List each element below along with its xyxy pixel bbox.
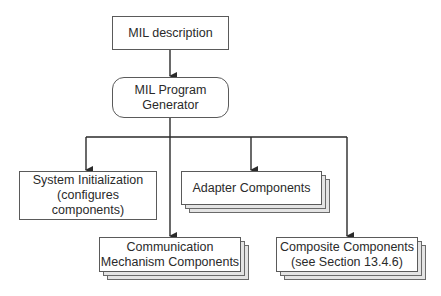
adapter-label: Adapter Components — [192, 181, 310, 196]
communication-label: Communication Mechanism Components — [101, 240, 239, 270]
program-generator-node: MIL Program Generator — [112, 77, 229, 118]
program-generator-label: MIL Program Generator — [135, 83, 207, 113]
mil-description-label: MIL description — [128, 26, 212, 41]
communication-node: Communication Mechanism Components — [99, 237, 241, 272]
composite-label: Composite Components (see Section 13.4.6… — [280, 240, 414, 270]
composite-node: Composite Components (see Section 13.4.6… — [276, 237, 418, 272]
adapter-node: Adapter Components — [181, 171, 322, 205]
system-init-node: System Initialization (configures compon… — [19, 171, 157, 220]
mil-description-node: MIL description — [112, 16, 229, 50]
system-init-label: System Initialization (configures compon… — [33, 173, 143, 218]
